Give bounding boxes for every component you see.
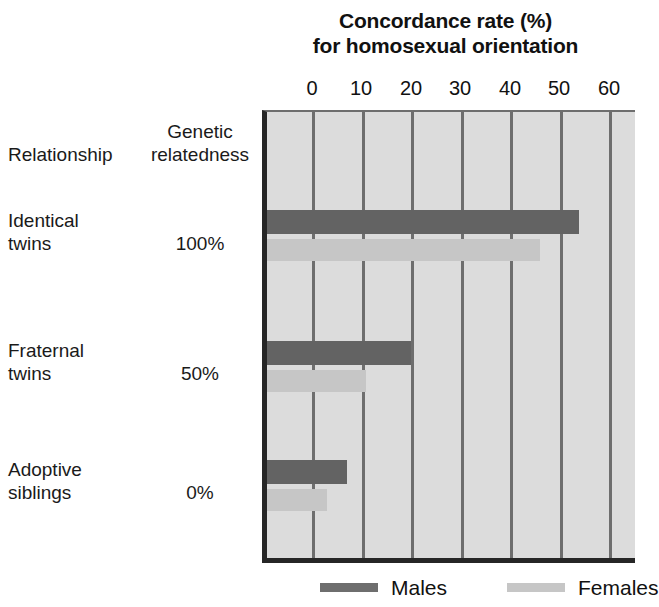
genetic-relatedness-adoptive-siblings: 0% [148,481,252,504]
legend-item-females: Females [507,575,659,600]
bar-adoptive-siblings-females [267,489,327,511]
legend-item-males: Males [320,575,447,600]
x-tick-30: 30 [449,76,471,100]
row-label-identical-twins-line-2: twins [8,232,148,255]
legend-label-females: Females [578,575,659,600]
bar-fraternal-twins-females [267,370,366,392]
row-label-identical-twins-line-1: Identical [8,209,148,232]
chart-title-line-1: Concordance rate (%) [256,8,635,33]
genetic-relatedness-adoptive-siblings-value: 0% [148,481,252,504]
x-tick-50: 50 [548,76,570,100]
x-tick-60: 60 [598,76,620,100]
bar-identical-twins-females [267,239,540,261]
row-label-adoptive-siblings-line-2: siblings [8,481,148,504]
legend-swatch-females-icon [507,583,565,592]
legend-swatch-males-icon [320,583,378,592]
gridline-20 [411,112,414,558]
gridline-50 [560,112,563,558]
gridline-30 [461,112,464,558]
row-label-fraternal-twins-line-2: twins [8,362,148,385]
gridline-10 [362,112,365,558]
genetic-relatedness-fraternal-twins-value: 50% [148,362,252,385]
column-header-genetic-line-2: relatedness [148,143,252,166]
genetic-relatedness-identical-twins-value: 100% [148,232,252,255]
genetic-relatedness-fraternal-twins: 50% [148,362,252,385]
bar-identical-twins-males [267,210,579,234]
gridline-40 [510,112,513,558]
legend-label-males: Males [391,575,447,600]
column-header-genetic-line-1: Genetic [148,120,252,143]
row-label-adoptive-siblings-line-1: Adoptive [8,458,148,481]
x-tick-10: 10 [350,76,372,100]
x-axis-tick-labels: 0 10 20 30 40 50 60 [0,76,635,102]
column-header-genetic-relatedness: Genetic relatedness [148,120,252,166]
row-label-adoptive-siblings: Adoptive siblings [8,458,148,504]
genetic-relatedness-identical-twins: 100% [148,232,252,255]
bar-fraternal-twins-males [267,341,411,365]
row-label-fraternal-twins: Fraternal twins [8,339,148,385]
column-header-relationship-label: Relationship [8,143,148,166]
column-header-relationship: Relationship [8,143,148,166]
x-tick-40: 40 [499,76,521,100]
row-label-fraternal-twins-line-1: Fraternal [8,339,148,362]
x-tick-20: 20 [400,76,422,100]
plot-area [262,110,635,563]
chart-title: Concordance rate (%) for homosexual orie… [256,8,635,58]
x-tick-0: 0 [306,76,317,100]
row-label-identical-twins: Identical twins [8,209,148,255]
bar-adoptive-siblings-males [267,460,347,484]
chart-title-line-2: for homosexual orientation [256,33,635,58]
gridline-60 [609,112,612,558]
